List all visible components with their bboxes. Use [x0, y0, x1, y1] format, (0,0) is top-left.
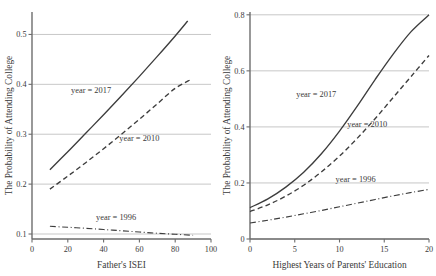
- x-tick-label: 0: [30, 245, 34, 254]
- x-tick-label: 10: [335, 245, 343, 254]
- x-tick-label: 20: [425, 245, 433, 254]
- y-axis-title: The Probability of Attending College: [222, 56, 232, 196]
- curve-labels-left: year = 2017year = 2010year = 1996: [71, 86, 159, 222]
- curve-1996: [250, 189, 429, 223]
- curve-label-2017: year = 2017: [71, 86, 111, 95]
- data-curves-left: [50, 21, 193, 235]
- chart-svg-right: 00.20.40.60.805101520 year = 2017year = …: [218, 0, 436, 276]
- y-tick-label: 0.5: [16, 30, 26, 39]
- x-axis-title: Highest Years of Parents' Education: [272, 260, 407, 270]
- curve-label-1996: year = 1996: [336, 175, 376, 184]
- y-axis-title: The Probability of Attending College: [4, 56, 14, 196]
- x-tick-label: 15: [380, 245, 388, 254]
- y-tick-label: 0.2: [234, 179, 244, 188]
- curve-label-2010: year = 2010: [347, 120, 387, 129]
- y-tick-label: 0.4: [16, 80, 26, 89]
- x-tick-label: 20: [64, 245, 72, 254]
- y-tick-label: 0.2: [16, 180, 26, 189]
- figure-container: 0.10.20.30.40.5020406080100 year = 2017y…: [0, 0, 436, 276]
- x-axis-title: Father's ISEI: [97, 260, 146, 270]
- curve-label-2017: year = 2017: [296, 90, 336, 99]
- tick-labels-right: 00.20.40.60.805101520: [234, 11, 433, 254]
- y-tick-label: 0: [240, 235, 244, 244]
- y-tick-label: 0.3: [16, 130, 26, 139]
- curve-label-2010: year = 2010: [119, 134, 159, 143]
- grid-lines-right: [250, 15, 429, 239]
- chart-panel-left: 0.10.20.30.40.5020406080100 year = 2017y…: [0, 0, 218, 276]
- data-curves-right: [250, 15, 429, 223]
- y-tick-label: 0.8: [234, 11, 244, 20]
- x-tick-label: 40: [100, 245, 108, 254]
- chart-svg-left: 0.10.20.30.40.5020406080100 year = 2017y…: [0, 0, 218, 276]
- y-tick-label: 0.1: [16, 230, 26, 239]
- x-tick-label: 60: [135, 245, 143, 254]
- x-tick-label: 100: [205, 245, 217, 254]
- y-tick-label: 0.6: [234, 67, 244, 76]
- x-tick-label: 80: [171, 245, 179, 254]
- curve-label-1996: year = 1996: [96, 213, 136, 222]
- chart-panel-right: 00.20.40.60.805101520 year = 2017year = …: [218, 0, 436, 276]
- curve-2010: [250, 55, 429, 211]
- axes-left: [29, 12, 212, 243]
- curve-labels-right: year = 2017year = 2010year = 1996: [296, 90, 387, 183]
- x-tick-label: 0: [248, 245, 252, 254]
- x-tick-label: 5: [293, 245, 297, 254]
- y-tick-label: 0.4: [234, 123, 244, 132]
